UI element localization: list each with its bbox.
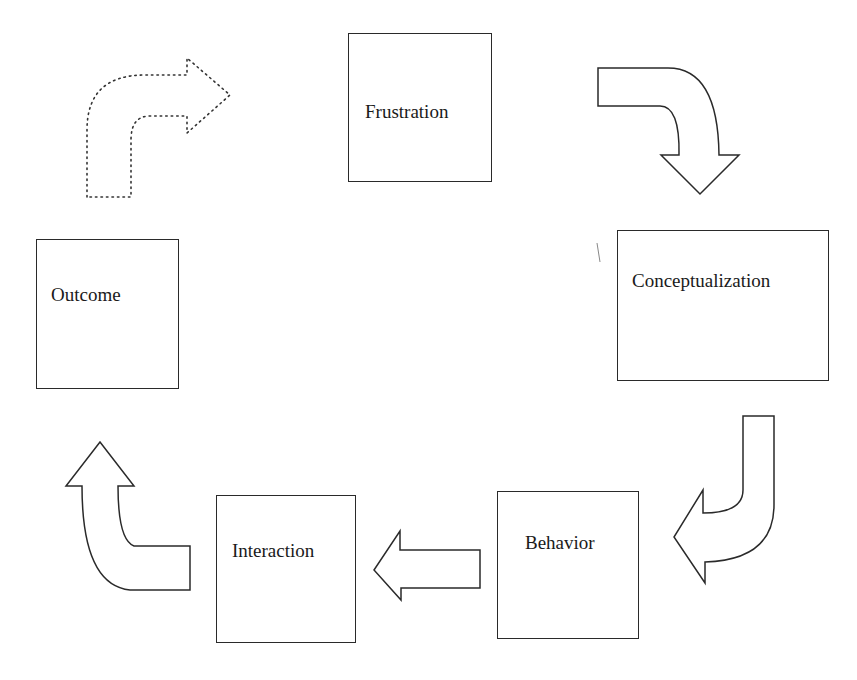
frustration-cycle-diagram: Frustration Conceptualization Outcome In… bbox=[0, 0, 857, 680]
stray-mark bbox=[0, 0, 857, 680]
